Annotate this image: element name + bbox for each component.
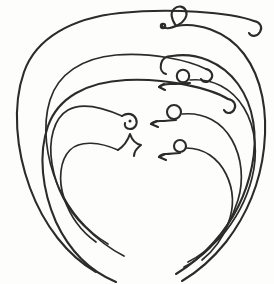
ring-left-4-coil-center xyxy=(129,120,132,123)
wire-rings-drawing xyxy=(0,0,274,284)
illustration-plate xyxy=(0,0,274,284)
